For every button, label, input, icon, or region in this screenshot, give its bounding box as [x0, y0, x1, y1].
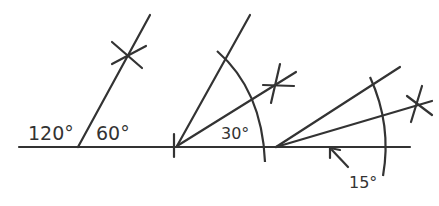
- construction-diagram: 120° 60° 30° 15°: [0, 0, 439, 206]
- figure-15-degree: [276, 67, 432, 176]
- label-60: 60°: [96, 122, 130, 144]
- arc-mark-2: [112, 46, 146, 64]
- compass-arc-2: [370, 77, 386, 176]
- label-15: 15°: [349, 173, 377, 192]
- arc-mark-5: [407, 96, 432, 115]
- label-30: 30°: [221, 124, 249, 143]
- label-120: 120°: [28, 122, 74, 144]
- bisector-15: [276, 101, 432, 147]
- arc-mark-3: [263, 85, 294, 86]
- pointer-arrow-shaft: [332, 150, 348, 167]
